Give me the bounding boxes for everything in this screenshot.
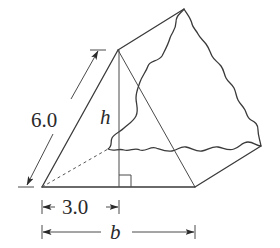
height-label: h [100,105,111,129]
bottom-right-edge [195,146,261,187]
slant-arrow-down [27,134,53,185]
diagram-canvas: 6.0 h 3.0 b [0,0,280,248]
half-base-label: 3.0 [62,195,88,219]
right-angle-marker [119,175,131,187]
base-label: b [110,220,121,244]
broken-back-face [108,9,261,151]
prism-diagram: 6.0 h 3.0 b [0,0,280,248]
slant-edge-label: 6.0 [31,108,57,132]
front-right-edge [118,50,195,187]
slant-arrow-up [71,51,98,99]
